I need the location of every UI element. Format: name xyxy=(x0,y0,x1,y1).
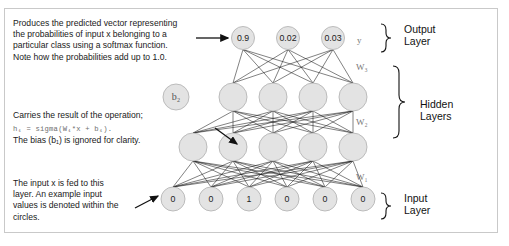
svg-text:0.03: 0.03 xyxy=(324,33,341,43)
network-edges xyxy=(173,50,363,188)
svg-text:b₂: b₂ xyxy=(172,91,181,102)
hidden2-node xyxy=(219,83,247,111)
svg-text:0.02: 0.02 xyxy=(279,33,296,43)
input-layer-brace xyxy=(381,193,391,219)
svg-text:0: 0 xyxy=(209,194,214,204)
svg-text:0: 0 xyxy=(361,194,366,204)
hidden-layers-brace xyxy=(393,66,405,138)
input-node: 1 xyxy=(237,187,261,211)
output-node: 0.02 xyxy=(277,27,300,50)
svg-text:1: 1 xyxy=(247,194,252,204)
hidden2-node xyxy=(259,83,287,111)
output-node: 0.03 xyxy=(322,27,345,50)
output-node: 0.9 xyxy=(232,27,255,50)
network-graphic: 0010000.90.020.03b₂ xyxy=(0,0,509,246)
input-node: 0 xyxy=(161,187,185,211)
hidden1-node xyxy=(259,133,287,161)
hidden1-node xyxy=(179,133,207,161)
hidden1-node xyxy=(299,133,327,161)
input-node: 0 xyxy=(275,187,299,211)
svg-text:0.9: 0.9 xyxy=(237,33,249,43)
hidden1-node xyxy=(339,133,367,161)
svg-text:0: 0 xyxy=(171,194,176,204)
hidden1-node xyxy=(219,133,247,161)
bias-node-b2: b₂ xyxy=(163,84,189,110)
input-node: 0 xyxy=(313,187,337,211)
input-node: 0 xyxy=(199,187,223,211)
svg-text:0: 0 xyxy=(285,194,290,204)
hidden2-node xyxy=(299,83,327,111)
input-node: 0 xyxy=(351,187,375,211)
svg-text:0: 0 xyxy=(323,194,328,204)
output-layer-brace xyxy=(381,24,391,52)
hidden2-node xyxy=(339,83,367,111)
arrow-to-input-layer xyxy=(135,196,158,208)
